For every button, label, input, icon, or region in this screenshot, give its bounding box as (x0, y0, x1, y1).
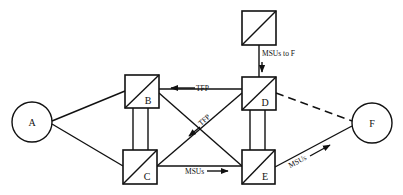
node-top (242, 11, 276, 45)
node-e: E (242, 150, 275, 184)
label-tfp-b: TFP (196, 84, 209, 93)
node-b-label: B (145, 95, 152, 106)
label-msus-e-f: MSUs (287, 153, 308, 170)
link-d-f-dashed (276, 93, 352, 121)
link-a-b (52, 91, 125, 121)
label-tfp-c: TFP (196, 112, 212, 127)
link-a-c (52, 124, 123, 166)
network-diagram: TFP TFP MSUs MSUs MSUs to F A F B C D E (0, 0, 403, 195)
node-d-label: D (261, 97, 268, 108)
node-a-label: A (28, 117, 36, 128)
label-msus-c-e: MSUs (185, 167, 204, 176)
node-f-label: F (369, 118, 375, 129)
node-d: D (242, 77, 276, 110)
node-a: A (12, 102, 52, 142)
links (52, 45, 352, 167)
node-c-label: C (144, 171, 151, 182)
node-e-label: E (262, 171, 268, 182)
node-b: B (125, 75, 159, 108)
node-f: F (352, 103, 392, 143)
node-c: C (123, 150, 157, 184)
label-msus-to-f: MSUs to F (262, 49, 295, 58)
